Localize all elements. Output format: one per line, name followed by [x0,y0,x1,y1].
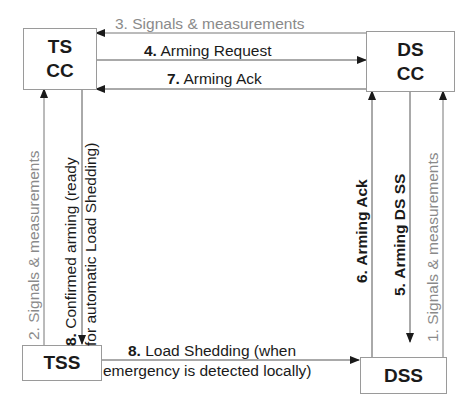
node-dss-label: DSS [384,364,423,388]
node-ds-cc-line1: DS [397,38,423,62]
edge-2-label: 2. Signals & measurements [25,150,43,340]
edge-5-label: 5. Arming DS SS [391,174,409,296]
node-ts-cc-line1: TS [48,35,72,59]
edge-7-label: 7. Arming Ack [167,70,262,88]
node-ds-cc: DS CC [366,31,455,92]
node-tss: TSS [22,345,102,381]
edge-8a-label-line1: 8. Confirmed arming (ready [62,157,80,346]
edge-8b-label-line1: 8. Load Shedding (when [128,342,296,360]
edge-1-label: 1. Signals & measurements [424,152,442,342]
edge-3-label: 3. Signals & measurements [115,15,305,33]
edge-8b-label-line2: emergency is detected locally) [103,362,312,380]
node-dss: DSS [360,357,447,394]
node-ts-cc: TS CC [23,28,97,90]
edge-8a-label-line2: for automatic Load Shedding) [82,143,100,346]
edge-4-label: 4. Arming Request [144,42,272,60]
node-ts-cc-line2: CC [46,59,73,83]
node-ds-cc-line2: CC [397,62,424,86]
node-tss-label: TSS [44,351,81,375]
edge-6-label: 6. Arming Ack [353,179,371,283]
